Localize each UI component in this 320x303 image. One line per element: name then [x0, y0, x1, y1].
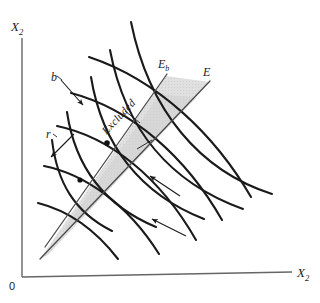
isoquant-family-b-label: b [51, 71, 57, 83]
x-axis [22, 272, 292, 277]
expansion-path-Eb-line [45, 74, 167, 247]
y-axis-label: X2 [11, 20, 23, 36]
arrow-right-mid-direction [150, 176, 180, 196]
arrow-r-direction [51, 134, 74, 157]
expansion-path-Eb-subscript: b [165, 64, 169, 73]
axes-group [22, 38, 292, 277]
isoquant-family-r-label: r [46, 128, 51, 140]
tangency-point-upper [104, 140, 110, 146]
arrow-right-low-direction [152, 219, 186, 236]
figure-container: X2 X2 0 b r Eb E Excluded [0, 0, 320, 303]
x-axis-label-text: X [297, 265, 305, 280]
isoquant-diagram-svg [0, 0, 320, 303]
tangency-point-lower [77, 177, 82, 182]
y-axis-label-text: X [11, 19, 19, 34]
y-axis-label-subscript: 2 [19, 27, 23, 37]
origin-label: 0 [9, 281, 15, 292]
leader-b [57, 76, 62, 80]
expansion-path-Eb-label: Eb [158, 58, 169, 73]
leader-r [53, 134, 57, 137]
x-axis-label: X2 [297, 266, 309, 282]
expansion-path-E-label: E [203, 66, 210, 78]
x-axis-label-subscript: 2 [305, 273, 309, 283]
arrow-b-direction [61, 80, 83, 105]
